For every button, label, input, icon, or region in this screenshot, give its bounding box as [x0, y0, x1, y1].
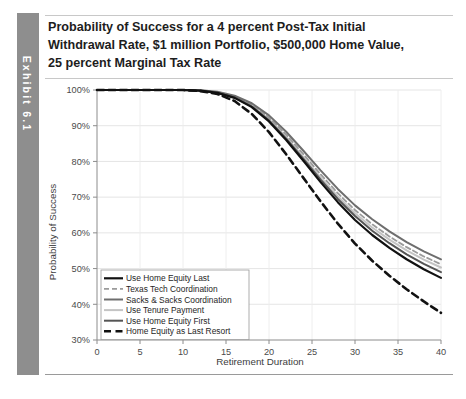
legend-label: Use Home Equity First [126, 316, 210, 326]
divider-bottom [45, 374, 453, 375]
title-line-3: 25 percent Marginal Tax Rate [48, 55, 452, 73]
x-axis-tick-labels: 0510152025303540 [94, 340, 446, 357]
y-tick-label: 80% [72, 157, 90, 167]
legend-label: Use Tenure Payment [126, 305, 205, 315]
legend-label: Home Equity as Last Resort [126, 326, 231, 336]
legend-label: Sacks & Sacks Coordination [126, 295, 232, 305]
y-tick-label: 50% [72, 264, 90, 274]
legend-label: Use Home Equity Last [126, 273, 210, 283]
x-tick-label: 25 [307, 347, 317, 357]
title-line-2: Withdrawal Rate, $1 million Portfolio, $… [48, 37, 452, 55]
x-tick-label: 35 [393, 347, 403, 357]
chart-container: 30%40%50%60%70%80%90%100% 05101520253035… [45, 82, 455, 372]
exhibit-tab: Exhibit 6.1 [17, 13, 39, 375]
x-tick-label: 10 [178, 347, 188, 357]
y-axis-title: Probability of Success [47, 184, 58, 280]
x-tick-label: 5 [137, 347, 142, 357]
y-tick-label: 70% [72, 192, 90, 202]
chart-legend: Use Home Equity LastTexas Tech Coordinat… [101, 270, 249, 340]
x-axis-title: Retirement Duration [216, 356, 304, 367]
line-chart: 30%40%50%60%70%80%90%100% 05101520253035… [45, 82, 455, 372]
x-tick-label: 30 [350, 347, 360, 357]
y-tick-label: 40% [72, 300, 90, 310]
divider-top [45, 15, 453, 16]
x-tick-label: 0 [94, 347, 99, 357]
page-title: Probability of Success for a 4 percent P… [48, 19, 452, 72]
title-line-1: Probability of Success for a 4 percent P… [48, 19, 452, 37]
y-tick-label: 60% [72, 228, 90, 238]
x-tick-label: 40 [436, 347, 446, 357]
y-tick-label: 30% [72, 335, 90, 345]
divider-under-title [45, 78, 453, 79]
exhibit-tab-label: Exhibit 6.1 [16, 4, 38, 184]
y-tick-label: 90% [72, 121, 90, 131]
y-axis-tick-labels: 30%40%50%60%70%80%90%100% [67, 85, 98, 345]
exhibit-page: Exhibit 6.1 Probability of Success for a… [0, 0, 466, 399]
legend-label: Texas Tech Coordination [126, 284, 218, 294]
y-tick-label: 100% [67, 85, 91, 95]
